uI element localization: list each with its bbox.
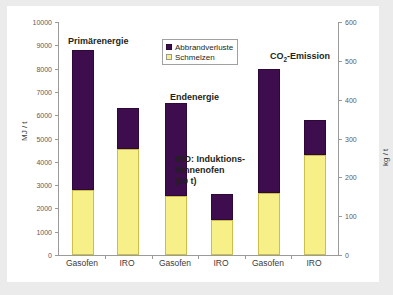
bar-segment-schmelzen [117,149,139,255]
x-axis-label-iro-2: IRO [213,258,228,268]
bar-segment-schmelzen [211,220,233,255]
right-tick-label-500: 500 [345,57,357,64]
left-tick-4000 [55,162,59,163]
chart-panel: MJ / t kg / t 0 1000 2000 3000 4000 5000… [7,6,379,282]
x-axis-tick-5 [291,255,292,259]
left-tick-label-10000: 10000 [33,19,52,26]
left-tick-label-0: 0 [48,252,52,259]
right-tick-600 [338,22,342,23]
legend-swatch-icon-abbrandverluste [166,44,172,50]
right-tick-label-300: 300 [345,135,357,142]
right-tick-label-100: 100 [345,213,357,220]
left-tick-0 [55,255,59,256]
bar-segment-abbrandverluste [304,120,326,155]
annotation-primaerenergie: Primärenergie [68,36,129,47]
left-tick-10000 [55,22,59,23]
right-tick-label-600: 600 [345,19,357,26]
right-tick-300 [338,139,342,140]
left-tick-label-1000: 1000 [36,228,52,235]
annotation-co2-emission: CO2-Emission [270,51,330,65]
right-tick-0 [338,255,342,256]
bar-primaerenergie-gasofen[interactable] [72,50,94,255]
left-tick-2000 [55,208,59,209]
right-tick-label-400: 400 [345,96,357,103]
left-tick-label-2000: 2000 [36,205,52,212]
bar-segment-schmelzen [165,196,187,255]
left-tick-5000 [55,139,59,140]
left-tick-label-3000: 3000 [36,182,52,189]
right-tick-100 [338,216,342,217]
bar-segment-schmelzen [72,190,94,255]
left-tick-7000 [55,92,59,93]
x-axis-label-gasofen-2: Gasofen [159,258,191,268]
left-tick-label-5000: 5000 [36,135,52,142]
bar-segment-abbrandverluste [258,69,280,193]
left-axis-title: MJ / t [20,121,29,141]
legend-item-schmelzen[interactable]: Schmelzen [166,52,233,62]
right-tick-500 [338,61,342,62]
bar-segment-schmelzen [304,155,326,255]
legend-label-schmelzen: Schmelzen [175,53,215,62]
right-tick-label-0: 0 [345,252,349,259]
annotation-iro-note: IRO: Induktions- Rinnenofen (50 t) [175,154,245,187]
right-tick-400 [338,100,342,101]
bar-co2-gasofen[interactable] [258,69,280,255]
right-axis-title: kg / t [381,149,390,166]
bar-segment-abbrandverluste [72,50,94,190]
bar-endenergie-iro[interactable] [211,194,233,255]
left-tick-3000 [55,185,59,186]
left-tick-label-8000: 8000 [36,65,52,72]
legend-item-abbrandverluste[interactable]: Abbrandverluste [166,42,233,52]
annotation-iro-line-3: (50 t) [175,176,245,187]
right-tick-200 [338,177,342,178]
x-axis-label-iro-1: IRO [119,258,134,268]
chart-legend: Abbrandverluste Schmelzen [162,39,238,65]
x-axis-tick-1 [105,255,106,259]
x-axis-tick-4 [245,255,246,259]
x-axis-label-gasofen-1: Gasofen [66,258,98,268]
x-axis-label-gasofen-3: Gasofen [252,258,284,268]
annotation-co2-suffix: -Emission [287,51,330,61]
annotation-iro-line-2: Rinnenofen [175,165,245,176]
left-tick-label-6000: 6000 [36,112,52,119]
x-axis-tick-3 [198,255,199,259]
left-tick-label-7000: 7000 [36,88,52,95]
bar-segment-abbrandverluste [117,108,139,149]
bar-co2-iro[interactable] [304,120,326,255]
x-axis-tick-2 [152,255,153,259]
annotation-endenergie: Endenergie [170,92,219,103]
left-tick-label-9000: 9000 [36,42,52,49]
bar-segment-schmelzen [258,193,280,255]
left-tick-6000 [55,115,59,116]
bar-primaerenergie-iro[interactable] [117,108,139,255]
annotation-iro-line-1: IRO: Induktions- [175,154,245,165]
annotation-co2-prefix: CO [270,51,284,61]
left-tick-1000 [55,232,59,233]
right-tick-label-200: 200 [345,174,357,181]
left-tick-9000 [55,45,59,46]
left-tick-label-4000: 4000 [36,158,52,165]
x-axis-label-iro-3: IRO [306,258,321,268]
legend-swatch-icon-schmelzen [166,54,172,60]
bar-segment-abbrandverluste [211,194,233,220]
left-tick-8000 [55,69,59,70]
legend-label-abbrandverluste: Abbrandverluste [175,43,233,52]
